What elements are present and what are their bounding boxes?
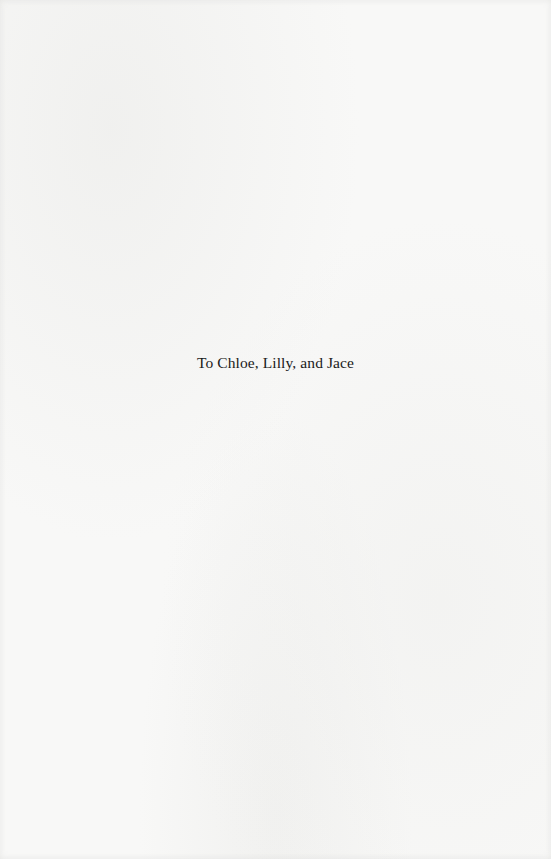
book-page: To Chloe, Lilly, and Jace: [0, 0, 551, 859]
dedication-text: To Chloe, Lilly, and Jace: [0, 353, 551, 373]
page-edge-shading: [0, 0, 551, 859]
